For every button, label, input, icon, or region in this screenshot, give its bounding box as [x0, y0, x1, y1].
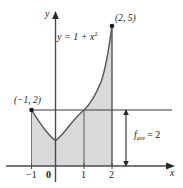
curve-equation-label: y = 1 + x2: [57, 32, 97, 42]
x-tick-label--1: −1: [26, 170, 37, 180]
point-label-right: (2, 5): [115, 14, 136, 24]
curve-equation-exponent: 2: [94, 31, 97, 37]
axis-y-label: y: [45, 9, 49, 19]
axis-x-label: x: [170, 168, 174, 178]
figure-canvas: [0, 0, 183, 188]
x-tick-label-0: 0: [46, 170, 51, 180]
average-value-label: fave= 2: [134, 130, 160, 140]
shaded-region-under-curve: [32, 26, 113, 166]
x-tick-label-2: 2: [109, 170, 114, 180]
point-marker-left: [29, 108, 34, 113]
point-marker-right: [110, 24, 115, 29]
x-tick-label-1: 1: [81, 170, 86, 180]
average-value-subscript: ave: [137, 135, 145, 141]
average-value-figure: y x y = 1 + x2 (−1, 2) (2, 5) fave= 2 −1…: [0, 0, 183, 188]
curve-equation-text: y = 1 + x: [57, 31, 94, 42]
average-value-equals: = 2: [147, 129, 160, 140]
point-label-left: (−1, 2): [14, 96, 41, 106]
y-axis-arrow-icon: [52, 11, 59, 19]
